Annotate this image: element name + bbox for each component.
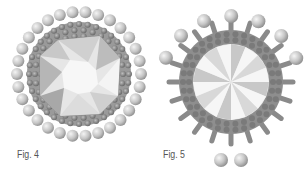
crystal-octagon xyxy=(40,36,120,116)
figure-5-caption: Fig. 5 xyxy=(163,149,185,160)
rivoli-facets xyxy=(193,44,269,120)
bottom-pearls xyxy=(214,153,248,167)
figure-4-illustration xyxy=(0,0,160,148)
figure-4-caption: Fig. 4 xyxy=(17,149,39,160)
